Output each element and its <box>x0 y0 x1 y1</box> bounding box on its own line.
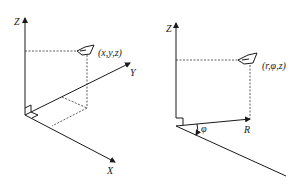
point-label: (x,y,z) <box>98 47 123 59</box>
projection-line <box>52 108 87 126</box>
r-axis-label: R <box>243 124 250 135</box>
coordinate-systems-figure: Z Y X (x,y,z) Z R φ (r,φ,z) <box>0 0 305 184</box>
right-angle-mark <box>31 112 38 118</box>
point-marker-detail <box>242 59 249 60</box>
right-angle-mark <box>176 118 183 125</box>
point-marker <box>238 53 257 64</box>
projection-line <box>62 97 87 108</box>
angle-arc <box>196 124 198 135</box>
cartesian-diagram: Z Y X (x,y,z) <box>14 16 137 176</box>
point-marker-detail <box>80 50 86 51</box>
x-axis <box>25 115 115 162</box>
y-axis-label: Y <box>130 67 137 78</box>
cylindrical-diagram: Z R φ (r,φ,z) <box>166 23 287 176</box>
point-label: (r,φ,z) <box>262 60 287 72</box>
right-angle-mark <box>25 105 31 112</box>
r-vector <box>176 119 250 126</box>
angle-label: φ <box>201 123 207 134</box>
y-axis <box>25 63 130 115</box>
z-axis-label: Z <box>166 23 172 34</box>
x-axis-label: X <box>106 165 114 176</box>
reference-line <box>176 126 286 176</box>
z-axis-label: Z <box>14 16 20 27</box>
